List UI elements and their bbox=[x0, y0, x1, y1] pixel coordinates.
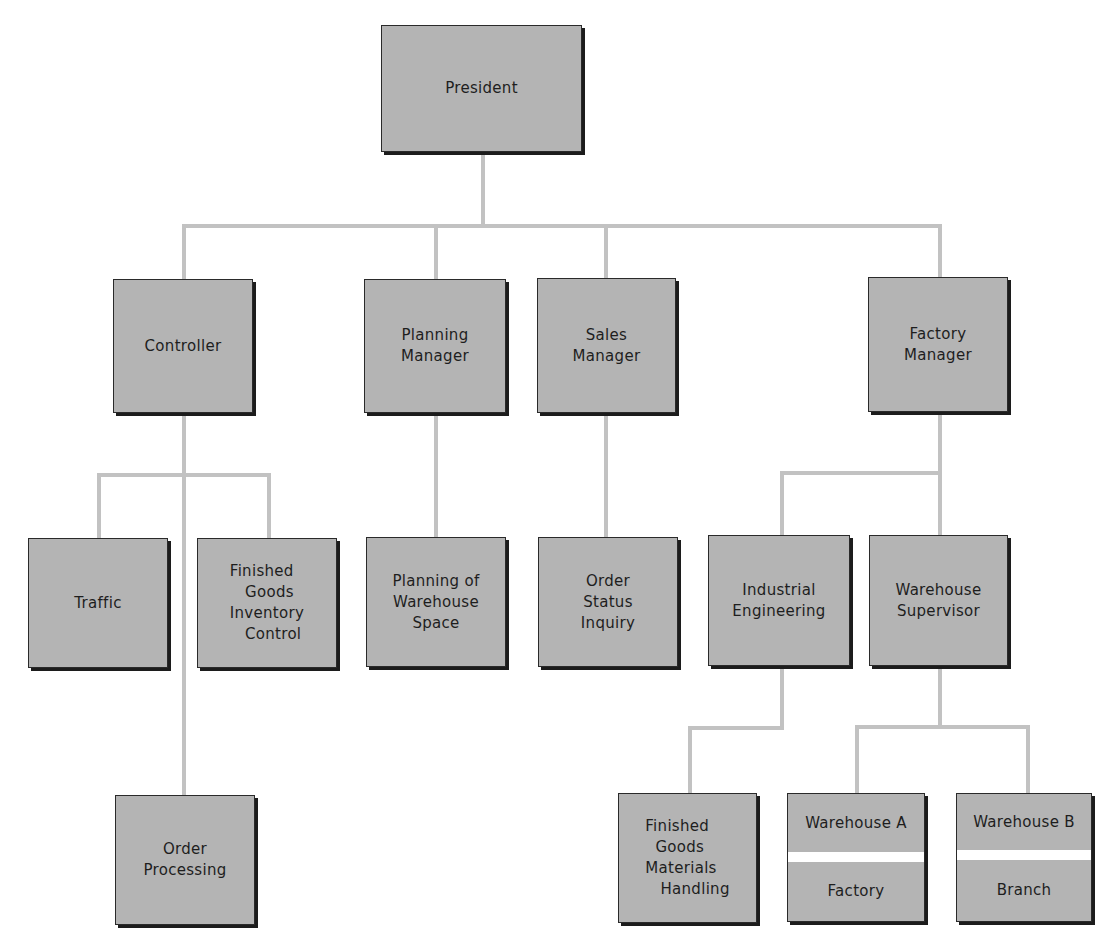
node-label: Finished Goods Materials Handling bbox=[645, 816, 729, 900]
connector-to-controller bbox=[182, 224, 186, 280]
connector-to-warehouse-a bbox=[855, 725, 859, 794]
node-label: Controller bbox=[145, 336, 222, 357]
connector-to-planning-warehouse bbox=[434, 413, 438, 538]
node-order-status-inquiry: Order Status Inquiry bbox=[538, 537, 678, 667]
connector-controller-down bbox=[182, 413, 186, 796]
node-warehouse-b: Warehouse B Branch bbox=[956, 793, 1092, 922]
node-label: Traffic bbox=[74, 593, 121, 614]
connector-president-down bbox=[481, 152, 485, 228]
connector-industrial-down bbox=[780, 666, 784, 730]
node-label-top: Warehouse A bbox=[805, 813, 907, 834]
node-label: Order Processing bbox=[143, 839, 226, 881]
connector-to-fg-materials bbox=[688, 726, 692, 794]
connector-to-factory-manager bbox=[938, 224, 942, 278]
node-order-processing: Order Processing bbox=[115, 795, 255, 925]
node-label: Finished Goods Inventory Control bbox=[230, 561, 304, 645]
connector-to-fg-inventory bbox=[267, 473, 271, 539]
node-planning-of-warehouse-space: Planning of Warehouse Space bbox=[366, 537, 506, 667]
connector-to-planning-manager bbox=[434, 224, 438, 280]
node-label-top: Warehouse B bbox=[973, 812, 1075, 833]
node-label: Planning Manager bbox=[401, 325, 469, 367]
node-label: Warehouse Supervisor bbox=[895, 580, 981, 622]
node-president: President bbox=[381, 25, 582, 152]
node-factory-manager: Factory Manager bbox=[868, 277, 1008, 412]
connector-to-warehouse-b bbox=[1026, 725, 1030, 794]
org-chart: President Controller Planning Manager Sa… bbox=[0, 0, 1113, 952]
node-label-bottom: Factory bbox=[828, 881, 885, 902]
connector-industrial-bus bbox=[688, 726, 784, 730]
node-finished-goods-inventory-control: Finished Goods Inventory Control bbox=[197, 538, 337, 668]
node-warehouse-a: Warehouse A Factory bbox=[787, 793, 925, 922]
connector-to-sales-manager bbox=[604, 224, 608, 280]
node-label: Industrial Engineering bbox=[732, 580, 825, 622]
node-label: President bbox=[445, 78, 518, 99]
node-label: Planning of Warehouse Space bbox=[392, 571, 479, 634]
node-industrial-engineering: Industrial Engineering bbox=[708, 535, 850, 666]
node-finished-goods-materials-handling: Finished Goods Materials Handling bbox=[618, 793, 757, 923]
connector-to-order-status bbox=[604, 413, 608, 538]
split-divider bbox=[957, 850, 1091, 860]
node-label-bottom: Branch bbox=[997, 880, 1052, 901]
connector-to-traffic bbox=[97, 473, 101, 539]
node-label: Factory Manager bbox=[904, 324, 972, 366]
node-warehouse-supervisor: Warehouse Supervisor bbox=[869, 535, 1008, 666]
node-traffic: Traffic bbox=[28, 538, 168, 668]
node-controller: Controller bbox=[113, 279, 253, 413]
connector-factory-bus bbox=[780, 471, 942, 475]
connector-to-industrial-eng bbox=[780, 471, 784, 536]
node-planning-manager: Planning Manager bbox=[364, 279, 506, 413]
connector-warehouse-bus bbox=[855, 725, 1030, 729]
connector-warehouse-sup-down bbox=[938, 666, 942, 728]
node-sales-manager: Sales Manager bbox=[537, 278, 676, 413]
node-label: Order Status Inquiry bbox=[581, 571, 635, 634]
connector-controller-bus bbox=[97, 473, 271, 477]
split-divider bbox=[788, 852, 924, 862]
connector-level1-bus bbox=[182, 224, 942, 228]
node-label: Sales Manager bbox=[573, 325, 641, 367]
